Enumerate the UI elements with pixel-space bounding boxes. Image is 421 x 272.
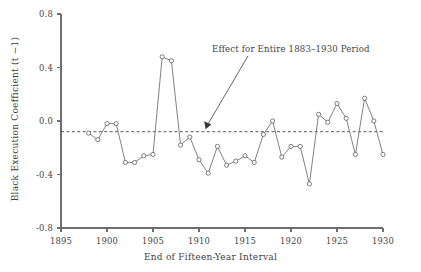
data-point-marker: [353, 152, 357, 156]
data-point-marker: [105, 122, 109, 126]
x-tick-label: 1910: [179, 236, 219, 246]
data-point-marker: [381, 152, 385, 156]
data-point-marker: [215, 144, 219, 148]
data-point-marker: [372, 119, 376, 123]
data-point-marker: [335, 102, 339, 106]
x-axis-ticks: [61, 228, 383, 232]
data-point-marker: [271, 119, 275, 123]
data-point-marker: [289, 144, 293, 148]
data-point-marker: [280, 155, 284, 159]
data-point-marker: [234, 159, 238, 163]
data-point-marker: [87, 131, 91, 135]
data-point-marker: [151, 152, 155, 156]
annotation-arrow-shaft: [208, 56, 248, 124]
data-point-marker: [197, 158, 201, 162]
data-point-marker: [326, 120, 330, 124]
chart-figure: 0.80.40.0-0.4-0.8 1895190019051910191519…: [0, 0, 421, 272]
x-tick-label: 1920: [271, 236, 311, 246]
x-tick-label: 1925: [317, 236, 357, 246]
annotation-arrow: [204, 56, 248, 129]
x-tick-label: 1930: [363, 236, 403, 246]
x-tick-label: 1915: [225, 236, 265, 246]
data-point-marker: [123, 160, 127, 164]
annotation-label: Effect for Entire 1883–1930 Period: [212, 44, 370, 54]
data-point-marker: [142, 154, 146, 158]
data-point-marker: [225, 163, 229, 167]
data-series-line: [89, 57, 383, 184]
y-axis-title: Black Execution Coefficient (t −1): [10, 9, 20, 229]
y-axis-ticks: [57, 14, 61, 228]
data-point-marker: [160, 55, 164, 59]
data-point-marker: [344, 116, 348, 120]
data-point-marker: [363, 96, 367, 100]
data-point-marker: [307, 182, 311, 186]
data-point-marker: [179, 143, 183, 147]
x-axis-title: End of Fifteen-Year Interval: [0, 252, 421, 262]
data-point-marker: [243, 154, 247, 158]
x-tick-label: 1895: [41, 236, 81, 246]
annotation-arrow-head: [204, 121, 211, 129]
data-point-marker: [188, 135, 192, 139]
data-point-marker: [261, 132, 265, 136]
data-point-marker: [133, 160, 137, 164]
data-point-marker: [114, 122, 118, 126]
data-point-marker: [96, 138, 100, 142]
data-point-marker: [298, 144, 302, 148]
data-point-marker: [317, 112, 321, 116]
data-point-marker: [206, 171, 210, 175]
x-tick-label: 1900: [87, 236, 127, 246]
data-point-marker: [252, 160, 256, 164]
x-tick-label: 1905: [133, 236, 173, 246]
data-point-markers: [87, 55, 386, 186]
chart-plot-area: [0, 0, 421, 272]
data-point-marker: [169, 59, 173, 63]
